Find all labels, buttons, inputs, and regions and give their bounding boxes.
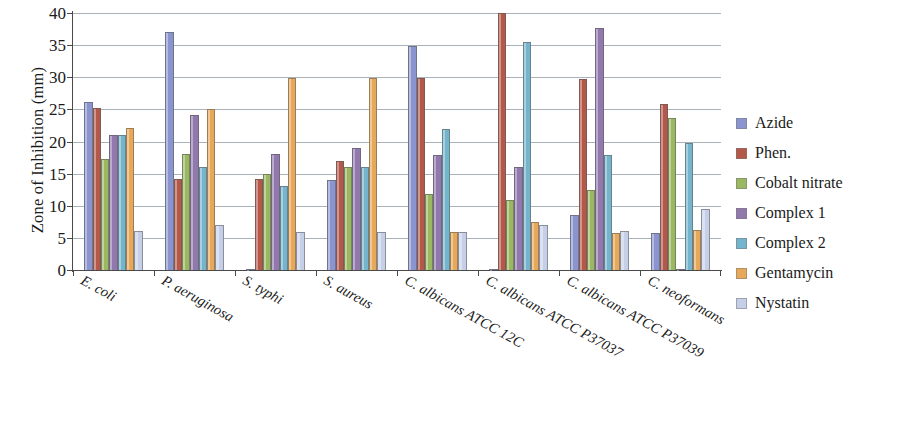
y-axis-tick-label: 15 (49, 165, 66, 182)
bar (489, 269, 497, 270)
bar (126, 128, 134, 270)
bar-group (559, 13, 640, 270)
bar (263, 174, 271, 270)
y-axis-tick-label: 10 (49, 197, 66, 214)
bar (336, 161, 344, 270)
bar-group (478, 13, 559, 270)
bar-group-bars (84, 13, 143, 270)
legend-color-swatch (736, 298, 747, 309)
bar (118, 135, 126, 270)
bar (620, 231, 628, 270)
bar (417, 78, 425, 270)
bar (327, 180, 335, 270)
bar (523, 42, 531, 270)
x-axis-category-label: P. aeruginosa (159, 272, 237, 325)
bar-group-bars (570, 13, 629, 270)
y-axis-tick-label: 35 (49, 37, 66, 54)
bar (587, 190, 595, 270)
x-axis-category-label: C. albicans ATCC P37039 (564, 272, 707, 361)
legend-label: Nystatin (755, 295, 809, 311)
x-axis-category-label: S. aureus (321, 272, 376, 313)
bar-group-bars (489, 13, 548, 270)
bar-chart-figure: Zone of Inhibition (mm) 0510152025303540… (0, 0, 899, 447)
bar-group (73, 13, 154, 270)
bar (425, 194, 433, 270)
bar-group (154, 13, 235, 270)
y-axis-tick-label: 30 (49, 69, 66, 86)
legend-label: Phen. (755, 145, 791, 161)
bar (433, 155, 441, 270)
bar (84, 102, 92, 270)
bar (109, 135, 117, 270)
legend-color-swatch (736, 208, 747, 219)
x-axis-category-label: E. coli (78, 272, 119, 305)
bar-group (316, 13, 397, 270)
y-axis-tick-label: 25 (49, 101, 66, 118)
bar-group (397, 13, 478, 270)
legend-item-phen: Phen. (736, 138, 896, 168)
bar (693, 230, 701, 270)
bar (612, 233, 620, 270)
bar (369, 78, 377, 270)
bar (531, 222, 539, 270)
bar (182, 154, 190, 270)
bar (288, 78, 296, 270)
chart-legend: AzidePhen.Cobalt nitrateComplex 1Complex… (736, 108, 896, 318)
bar (271, 154, 279, 270)
plot-area: 0510152025303540 (73, 13, 721, 270)
legend-item-complex-1: Complex 1 (736, 198, 896, 228)
bar (408, 46, 416, 270)
bar (579, 79, 587, 270)
bar (174, 179, 182, 270)
bar (701, 209, 709, 270)
bar (651, 233, 659, 270)
y-axis-tick-label: 20 (49, 133, 66, 150)
x-axis-category-label: C. albicans ATCC P37037 (483, 272, 626, 361)
bar-group-bars (651, 13, 710, 270)
bar (246, 269, 254, 270)
bar-group-bars (327, 13, 386, 270)
legend-label: Gentamycin (755, 265, 833, 281)
bar (215, 225, 223, 270)
legend-label: Complex 1 (755, 205, 826, 221)
y-axis-title: Zone of Inhibition (mm) (28, 20, 48, 280)
bar (458, 232, 466, 270)
bar (450, 232, 458, 270)
legend-color-swatch (736, 268, 747, 279)
x-axis-category-label: S. typhi (240, 272, 286, 308)
bar (199, 167, 207, 270)
legend-item-cobalt-nitrate: Cobalt nitrate (736, 168, 896, 198)
legend-color-swatch (736, 238, 747, 249)
bar (280, 186, 288, 270)
y-axis-tick-label: 40 (49, 5, 66, 22)
legend-item-azide: Azide (736, 108, 896, 138)
bar-group-bars (246, 13, 305, 270)
bar (668, 118, 676, 270)
bar (344, 167, 352, 270)
bar (442, 129, 450, 270)
legend-item-gentamycin: Gentamycin (736, 258, 896, 288)
bar-group (640, 13, 721, 270)
bar (296, 232, 304, 270)
bar (498, 13, 506, 270)
bar-group-bars (408, 13, 467, 270)
bar (514, 167, 522, 270)
legend-item-nystatin: Nystatin (736, 288, 896, 318)
legend-label: Complex 2 (755, 235, 826, 251)
y-axis-tick-label: 5 (58, 229, 67, 246)
bar (361, 167, 369, 270)
legend-label: Azide (755, 115, 793, 131)
bar (255, 179, 263, 270)
bar-group (235, 13, 316, 270)
bar (134, 231, 142, 270)
y-axis-tick-label: 0 (58, 262, 67, 279)
x-axis-category-labels: E. coliP. aeruginosaS. typhiS. aureusC. … (73, 272, 721, 402)
legend-color-swatch (736, 178, 747, 189)
bar (570, 215, 578, 270)
bar (685, 143, 693, 270)
bar (377, 232, 385, 270)
bar (207, 109, 215, 270)
legend-item-complex-2: Complex 2 (736, 228, 896, 258)
legend-color-swatch (736, 118, 747, 129)
bar (165, 32, 173, 270)
